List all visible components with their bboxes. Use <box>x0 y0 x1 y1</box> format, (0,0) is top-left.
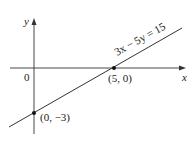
point-x-intercept <box>112 66 116 70</box>
y-intercept-label: (0, −3) <box>40 111 70 124</box>
x-axis-label: x <box>181 71 187 83</box>
x-axis-arrow-icon <box>179 66 186 71</box>
y-axis-label: y <box>23 15 29 27</box>
point-y-intercept <box>32 111 36 115</box>
graph-canvas: y x 0 (5, 0) (0, −3) 3x − 5y = 15 <box>0 0 195 143</box>
x-intercept-label: (5, 0) <box>108 72 132 85</box>
origin-label: 0 <box>24 71 30 83</box>
y-axis-arrow-icon <box>32 18 37 25</box>
